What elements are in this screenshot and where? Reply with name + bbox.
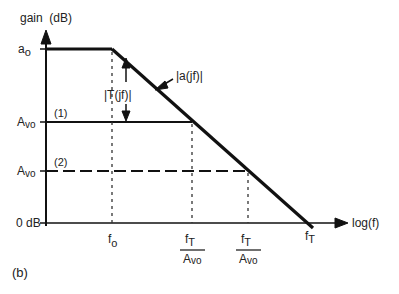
arrow-down-icon [122,111,130,121]
svg-text:fT: fT [185,232,195,248]
x-tick-ft: fT [305,229,315,245]
y-axis-title: gain (dB) [20,11,72,25]
loop-gain-label: |T(jf)| [104,88,132,102]
x-axis-arrow-icon [335,218,348,228]
svg-text:fT: fT [241,232,251,248]
x-tick-fo: fo [108,232,117,249]
y-tick-avo-1: Avo [17,115,36,130]
x-tick-ft-over-avo-1: fT Avo [180,232,205,266]
y-axis-arrow-icon [41,30,51,44]
svg-text:Avo: Avo [183,252,202,266]
y-tick-0db: 0 dB [16,216,41,230]
x-axis-title: log(f) [352,216,379,230]
x-tick-ft-over-avo-2: fT Avo [236,232,261,266]
open-loop-pointer [155,79,173,90]
axes [40,30,348,228]
bode-diagram: |T(jf)| |a(jf)| gain (dB) log(f) ao Avo … [0,0,399,294]
y-tick-avo-2: Avo [17,164,36,179]
y-tick-a0: ao [18,42,31,58]
svg-text:Avo: Avo [239,252,258,266]
open-loop-label: |a(jf)| [176,69,203,83]
pointer-arrow-icon [155,81,168,90]
curve-2-label: (2) [54,156,67,168]
curve-1-label: (1) [54,107,67,119]
panel-label: (b) [12,265,28,280]
